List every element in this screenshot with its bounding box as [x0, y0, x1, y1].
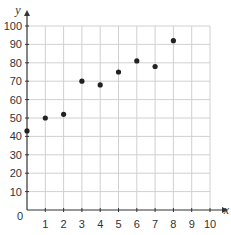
data-point — [79, 79, 84, 84]
x-axis-label: x — [223, 203, 230, 217]
data-point — [24, 128, 29, 133]
x-tick-label: 2 — [61, 218, 67, 230]
y-tick-label: 60 — [10, 94, 22, 106]
x-tick-label: 8 — [170, 218, 176, 230]
x-tick-label: 10 — [204, 218, 216, 230]
y-tick-label: 80 — [10, 57, 22, 69]
y-tick-label: 30 — [10, 149, 22, 161]
x-tick-label: 3 — [79, 218, 85, 230]
y-tick-label: 90 — [10, 38, 22, 50]
y-tick-label: 100 — [4, 20, 22, 32]
x-tick-label: 5 — [115, 218, 121, 230]
y-tick-label: 10 — [10, 186, 22, 198]
grid-lines — [27, 26, 210, 210]
data-point — [98, 82, 103, 87]
data-point — [43, 115, 48, 120]
x-tick-label: 7 — [152, 218, 158, 230]
y-axis-label: y — [14, 3, 21, 17]
tick-labels: 123456789101020304050607080901000xy — [4, 3, 230, 230]
y-tick-label: 20 — [10, 167, 22, 179]
data-point — [61, 112, 66, 117]
y-tick-label: 50 — [10, 112, 22, 124]
data-point — [134, 58, 139, 63]
data-point — [153, 64, 158, 69]
y-axis-arrow-icon — [24, 10, 30, 16]
axes — [24, 10, 228, 213]
scatter-chart: 123456789101020304050607080901000xy — [0, 0, 231, 235]
data-point — [116, 69, 121, 74]
y-tick-label: 70 — [10, 75, 22, 87]
x-tick-label: 9 — [189, 218, 195, 230]
x-tick-label: 4 — [97, 218, 103, 230]
data-point — [171, 38, 176, 43]
y-tick-label: 40 — [10, 130, 22, 142]
x-tick-label: 1 — [42, 218, 48, 230]
origin-label: 0 — [17, 210, 23, 222]
x-tick-label: 6 — [134, 218, 140, 230]
